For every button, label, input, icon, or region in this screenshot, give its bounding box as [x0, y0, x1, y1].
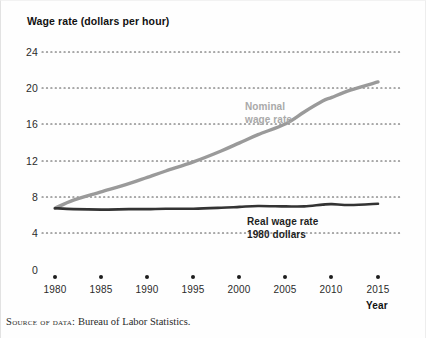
- x-tick-1995: 1995: [171, 284, 215, 295]
- x-marker-2010: [329, 275, 333, 279]
- x-tick-2005: 2005: [263, 284, 307, 295]
- x-tick-2000: 2000: [217, 284, 261, 295]
- x-marker-2015: [376, 275, 380, 279]
- annotation-nominal-line1: Nominal: [245, 101, 285, 112]
- chart-figure: Wage rate (dollars per hour) 24 20 16 12…: [0, 0, 426, 338]
- x-tick-2010: 2010: [309, 284, 353, 295]
- x-marker-2000: [237, 275, 241, 279]
- annotation-real-wage-rate: Real wage rate 1980 dollars: [247, 216, 318, 241]
- x-tick-2015: 2015: [356, 284, 400, 295]
- series-line-nominal-wage-rate: [55, 82, 378, 208]
- y-tick-0: 0: [12, 264, 38, 276]
- annotation-real-line1: Real wage rate: [247, 216, 318, 227]
- y-tick-24: 24: [12, 46, 38, 58]
- y-tick-12: 12: [12, 155, 38, 167]
- x-tick-1985: 1985: [79, 284, 123, 295]
- y-tick-4: 4: [12, 227, 38, 239]
- source-note: Source of data: Bureau of Labor Statisti…: [6, 316, 190, 327]
- x-marker-1995: [191, 275, 195, 279]
- x-marker-1985: [99, 275, 103, 279]
- x-marker-1980: [53, 275, 57, 279]
- series-line-real-wage-rate: [55, 204, 378, 210]
- x-marker-2005: [283, 275, 287, 279]
- x-tick-1990: 1990: [125, 284, 169, 295]
- source-note-label: Source of data:: [6, 316, 75, 327]
- annotation-nominal-wage-rate: Nominal wage rate: [245, 101, 292, 126]
- x-marker-1990: [145, 275, 149, 279]
- y-tick-20: 20: [12, 82, 38, 94]
- annotation-real-line2: 1980 dollars: [247, 229, 306, 240]
- annotation-nominal-line2: wage rate: [245, 114, 292, 125]
- y-tick-8: 8: [12, 191, 38, 203]
- source-note-value: Bureau of Labor Statistics.: [75, 316, 190, 327]
- x-tick-1980: 1980: [33, 284, 77, 295]
- x-axis-title: Year: [366, 300, 388, 311]
- y-tick-16: 16: [12, 118, 38, 130]
